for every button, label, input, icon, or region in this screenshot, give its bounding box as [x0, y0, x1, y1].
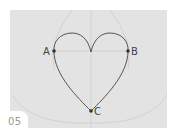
point-b-marker — [126, 49, 130, 53]
point-a-marker — [52, 49, 56, 53]
step-number-label: 05 — [8, 116, 22, 127]
point-c-label: C — [94, 106, 101, 117]
point-a-label: A — [43, 46, 50, 57]
point-c-marker — [89, 109, 93, 113]
point-b-label: B — [131, 46, 138, 57]
